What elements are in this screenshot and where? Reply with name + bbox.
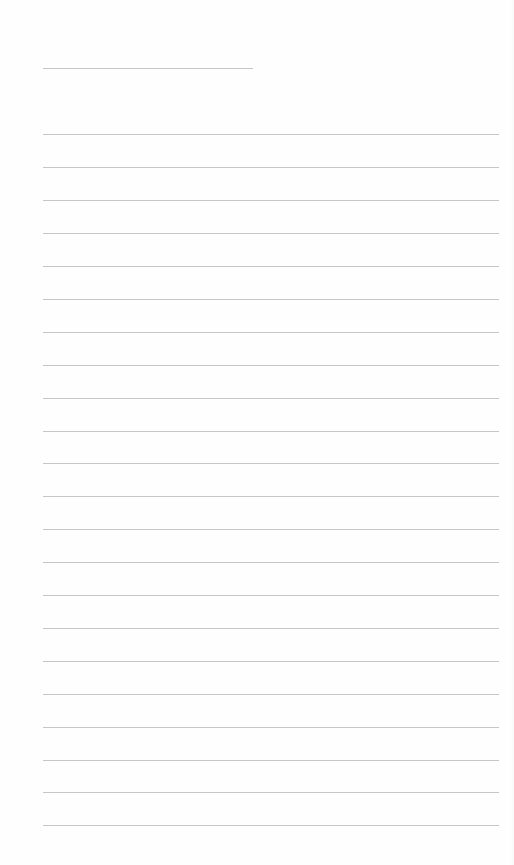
ruled-line[interactable] (43, 200, 499, 201)
ruled-line[interactable] (43, 496, 499, 497)
ruled-line[interactable] (43, 562, 499, 563)
ruled-line[interactable] (43, 727, 499, 728)
ruled-line[interactable] (43, 825, 499, 826)
page-edge-shadow (510, 0, 514, 865)
ruled-line[interactable] (43, 463, 499, 464)
lined-page (0, 0, 514, 865)
ruled-line[interactable] (43, 398, 499, 399)
ruled-line[interactable] (43, 792, 499, 793)
ruled-line[interactable] (43, 233, 499, 234)
ruled-lines-container (43, 0, 499, 865)
ruled-line[interactable] (43, 529, 499, 530)
ruled-line[interactable] (43, 266, 499, 267)
ruled-line[interactable] (43, 134, 499, 135)
ruled-line[interactable] (43, 167, 499, 168)
ruled-line[interactable] (43, 595, 499, 596)
ruled-line[interactable] (43, 661, 499, 662)
ruled-line[interactable] (43, 299, 499, 300)
ruled-line[interactable] (43, 694, 499, 695)
ruled-line[interactable] (43, 332, 499, 333)
ruled-line[interactable] (43, 628, 499, 629)
ruled-line[interactable] (43, 760, 499, 761)
ruled-line[interactable] (43, 431, 499, 432)
ruled-line[interactable] (43, 365, 499, 366)
